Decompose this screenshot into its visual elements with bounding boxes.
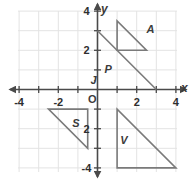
- x-tick-label-2: 2: [134, 96, 140, 107]
- y-tick-label-4: 4: [83, 6, 89, 17]
- shape-a: [117, 21, 146, 50]
- y-tick-label--4: -4: [82, 162, 92, 173]
- shape-p: [98, 31, 157, 90]
- x-tick-label--4: -4: [14, 96, 24, 107]
- x-tick-label--2: -2: [53, 96, 63, 107]
- shape-label-p: P: [105, 63, 112, 74]
- point-label-j: J: [91, 75, 97, 86]
- y-tick-label-2: 2: [83, 45, 89, 56]
- origin-label: O: [88, 94, 97, 105]
- x-tick-label-4: 4: [173, 96, 179, 107]
- coordinate-plane-figure: xyO-4-224422-4APSVJ: [0, 0, 195, 181]
- shape-label-s: S: [72, 117, 79, 128]
- x-axis-label: x: [181, 82, 188, 94]
- shape-label-a: A: [146, 23, 154, 34]
- y-axis-label: y: [101, 3, 108, 15]
- graph-canvas: [0, 0, 195, 181]
- shape-label-v: V: [120, 135, 127, 146]
- y-tick-label--2: 2: [83, 123, 89, 134]
